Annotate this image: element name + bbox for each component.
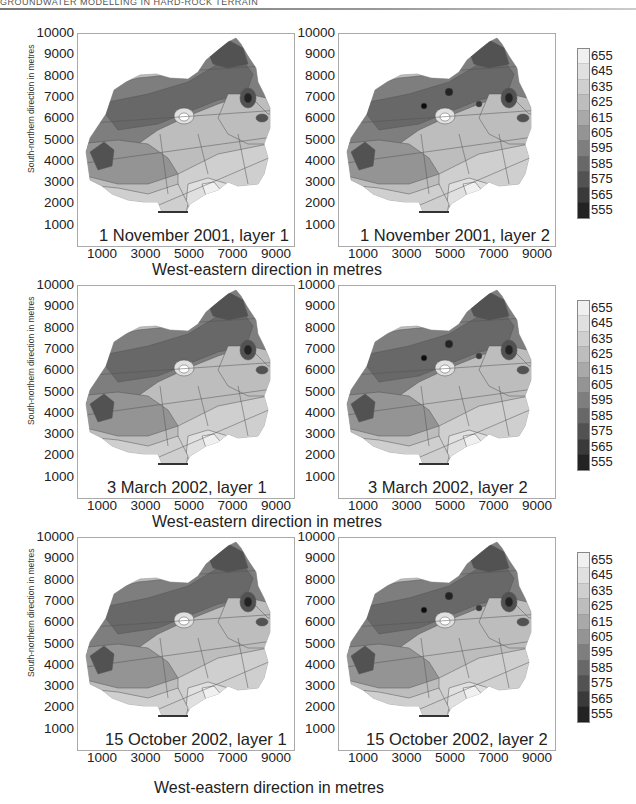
x-tick-label: 7000 bbox=[479, 751, 509, 765]
y-tick-label: 2000 bbox=[291, 700, 335, 714]
x-tick-label: 3000 bbox=[131, 247, 161, 261]
y-tick-label: 2000 bbox=[291, 448, 335, 462]
y-tick-label: 6000 bbox=[30, 111, 74, 125]
x-tick-label: 5000 bbox=[174, 751, 204, 765]
y-tick-label: 7000 bbox=[30, 90, 74, 104]
colorbar-label: 575 bbox=[591, 171, 613, 186]
x-tick-label: 7000 bbox=[218, 499, 248, 513]
colorbar-label: 565 bbox=[591, 691, 613, 706]
x-tick-label: 3000 bbox=[392, 499, 422, 513]
x-axis-label: West-eastern direction in metres bbox=[152, 261, 382, 279]
y-tick-label: 5000 bbox=[291, 385, 335, 399]
colorbar-swatch bbox=[578, 378, 589, 393]
colorbar-label: 635 bbox=[591, 583, 613, 598]
colorbar-label: 585 bbox=[591, 156, 613, 171]
y-tick-label: 1000 bbox=[291, 470, 335, 484]
x-tick-label: 1000 bbox=[348, 751, 378, 765]
y-tick-label: 3000 bbox=[291, 175, 335, 189]
x-tick-label: 5000 bbox=[435, 751, 465, 765]
colorbar-swatch bbox=[578, 568, 589, 583]
y-tick-label: 10000 bbox=[30, 26, 74, 40]
x-tick-label: 7000 bbox=[479, 499, 509, 513]
colorbar-label: 595 bbox=[591, 140, 613, 155]
y-tick-label: 9000 bbox=[30, 551, 74, 565]
y-tick-label: 4000 bbox=[30, 406, 74, 420]
y-tick-label: 5000 bbox=[30, 385, 74, 399]
colorbar-label: 585 bbox=[591, 408, 613, 423]
colorbar bbox=[577, 48, 590, 219]
colorbar-label: 615 bbox=[591, 362, 613, 377]
colorbar-label: 645 bbox=[591, 315, 613, 330]
y-tick-label: 6000 bbox=[291, 111, 335, 125]
y-tick-label: 9000 bbox=[30, 47, 74, 61]
colorbar-swatch bbox=[578, 584, 589, 599]
colorbar-swatch bbox=[578, 301, 589, 316]
y-tick-label: 9000 bbox=[291, 299, 335, 313]
colorbar-swatch bbox=[578, 316, 589, 331]
colorbar-swatch bbox=[578, 157, 589, 172]
colorbar-swatch bbox=[578, 64, 589, 79]
colorbar-swatch bbox=[578, 630, 589, 645]
x-tick-label: 5000 bbox=[174, 247, 204, 261]
y-tick-label: 6000 bbox=[30, 615, 74, 629]
colorbar-label: 585 bbox=[591, 660, 613, 675]
colorbar-label: 625 bbox=[591, 346, 613, 361]
colorbar-label: 565 bbox=[591, 439, 613, 454]
x-tick-label: 1000 bbox=[348, 247, 378, 261]
y-tick-label: 7000 bbox=[291, 594, 335, 608]
x-tick-label: 9000 bbox=[261, 751, 291, 765]
panel-title: 1 November 2001, layer 1 bbox=[99, 226, 289, 244]
y-tick-label: 3000 bbox=[30, 175, 74, 189]
panel-title: 3 March 2002, layer 2 bbox=[368, 478, 528, 496]
colorbar-swatch bbox=[578, 599, 589, 614]
colorbar-swatch bbox=[578, 440, 589, 455]
x-tick-label: 7000 bbox=[218, 751, 248, 765]
y-tick-label: 4000 bbox=[291, 154, 335, 168]
map-plot-area bbox=[338, 33, 556, 247]
panel-title: 15 October 2002, layer 1 bbox=[105, 730, 287, 748]
colorbar-swatch bbox=[578, 424, 589, 439]
colorbar-swatch bbox=[578, 95, 589, 110]
x-tick-label: 9000 bbox=[261, 247, 291, 261]
y-tick-label: 3000 bbox=[291, 679, 335, 693]
colorbar bbox=[577, 300, 590, 471]
y-tick-label: 7000 bbox=[30, 594, 74, 608]
x-tick-label: 5000 bbox=[435, 247, 465, 261]
y-tick-label: 8000 bbox=[291, 573, 335, 587]
y-tick-label: 1000 bbox=[30, 722, 74, 736]
x-tick-label: 7000 bbox=[218, 247, 248, 261]
colorbar-label: 655 bbox=[591, 552, 613, 567]
x-tick-label: 1000 bbox=[348, 499, 378, 513]
y-tick-label: 4000 bbox=[30, 658, 74, 672]
colorbar-label: 595 bbox=[591, 644, 613, 659]
colorbar-swatch bbox=[578, 553, 589, 568]
y-tick-label: 10000 bbox=[291, 530, 335, 544]
y-tick-label: 6000 bbox=[291, 615, 335, 629]
colorbar-label: 555 bbox=[591, 202, 613, 217]
colorbar-swatch bbox=[578, 692, 589, 707]
y-tick-label: 8000 bbox=[30, 321, 74, 335]
colorbar-label: 645 bbox=[591, 63, 613, 78]
y-tick-label: 10000 bbox=[291, 278, 335, 292]
y-axis-label: South-northern direction in metres bbox=[26, 44, 36, 173]
colorbar-swatch bbox=[578, 332, 589, 347]
y-tick-label: 7000 bbox=[291, 342, 335, 356]
x-tick-label: 9000 bbox=[522, 751, 552, 765]
colorbar bbox=[577, 552, 590, 723]
colorbar-swatch bbox=[578, 126, 589, 141]
colorbar-swatch bbox=[578, 676, 589, 691]
y-tick-label: 4000 bbox=[291, 406, 335, 420]
y-tick-label: 8000 bbox=[291, 69, 335, 83]
colorbar-swatch bbox=[578, 661, 589, 676]
x-tick-label: 9000 bbox=[522, 499, 552, 513]
colorbar-swatch bbox=[578, 455, 589, 470]
x-tick-label: 7000 bbox=[479, 247, 509, 261]
y-tick-label: 6000 bbox=[30, 363, 74, 377]
x-tick-label: 9000 bbox=[522, 247, 552, 261]
colorbar-swatch bbox=[578, 172, 589, 187]
colorbar-swatch bbox=[578, 707, 589, 722]
x-tick-label: 1000 bbox=[87, 751, 117, 765]
y-tick-label: 3000 bbox=[291, 427, 335, 441]
colorbar-swatch bbox=[578, 393, 589, 408]
colorbar-label: 605 bbox=[591, 629, 613, 644]
